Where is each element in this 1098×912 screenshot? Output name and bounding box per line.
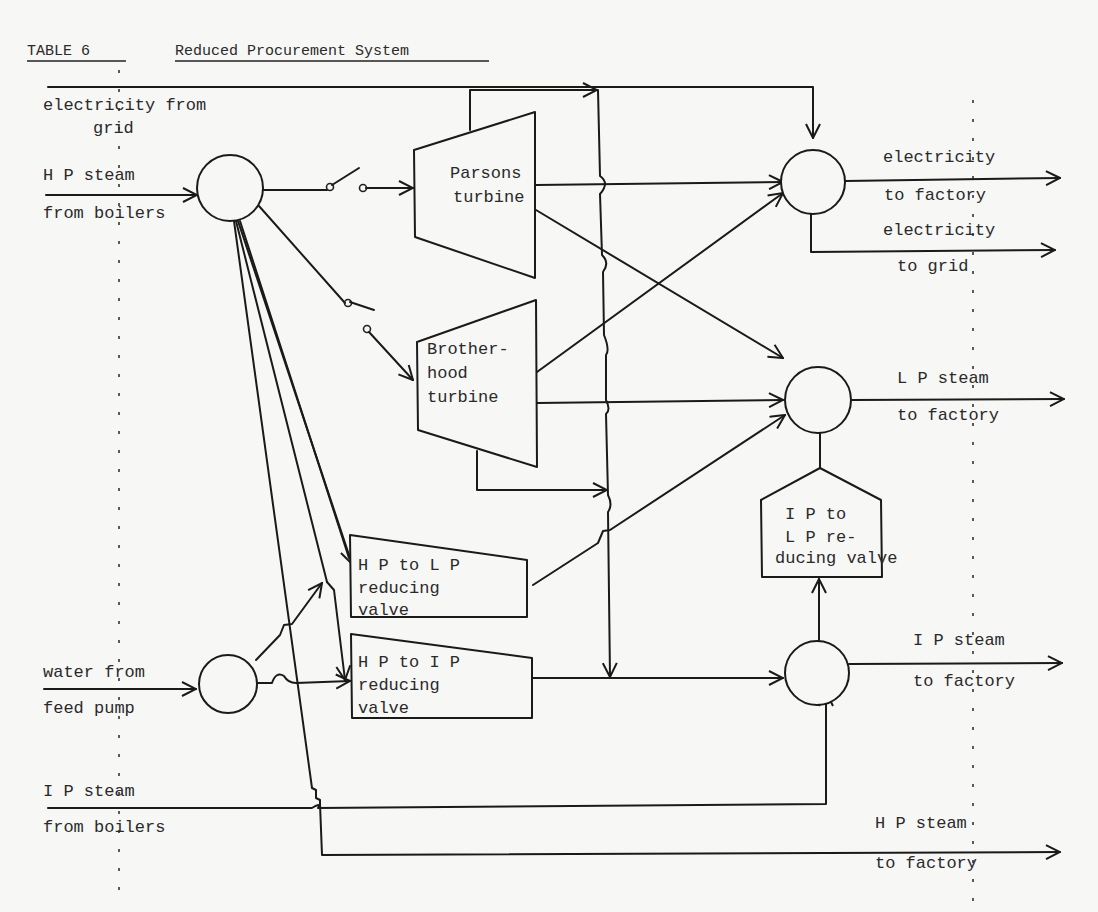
parsons-label-line1: Parsons	[450, 164, 521, 183]
input-water-line1: water from	[43, 663, 145, 682]
ip-steam-node	[785, 641, 849, 705]
output-electricity-grid-line2: to grid	[897, 257, 968, 276]
desuperheater-water-node	[199, 655, 257, 713]
output-hp-steam-line1: H P steam	[875, 814, 967, 833]
brotherhood-label-line1: Brother-	[427, 340, 509, 359]
hp-lp-valve-line2: reducing	[358, 579, 440, 598]
output-electricity-factory-line1: electricity	[883, 148, 995, 167]
ip-lp-valve-line2: L P re-	[785, 528, 856, 547]
hp-lp-valve-line3: valve	[358, 601, 409, 620]
hp-ip-valve-line3: valve	[358, 699, 409, 718]
input-water-line2: feed pump	[43, 699, 135, 718]
switch-lever	[350, 302, 374, 310]
ip-lp-valve-line1: I P to	[785, 505, 846, 524]
output-lp-steam-line2: to factory	[897, 406, 999, 425]
brotherhood-turbine	[417, 300, 537, 467]
input-ip-steam-line2: from boilers	[43, 818, 165, 837]
hp-ip-valve-line2: reducing	[358, 676, 440, 695]
hp-ip-valve-line1: H P to I P	[358, 653, 460, 672]
brotherhood-lp-steam-line	[537, 400, 783, 403]
output-ip-steam-line2: to factory	[913, 672, 1015, 691]
water-to-hp-ip-valve	[257, 675, 350, 683]
brotherhood-label-line3: turbine	[427, 388, 498, 407]
brotherhood-electricity-line	[537, 193, 783, 372]
ip-steam-to-factory-line	[849, 663, 1062, 664]
output-electricity-factory-line2: to factory	[884, 186, 986, 205]
diagram-page: TABLE 6 Reduced Procurement System elect…	[0, 0, 1098, 912]
hp-lp-valve-line1: H P to L P	[358, 556, 460, 575]
hp-steam-header-node	[197, 155, 263, 221]
electricity-to-factory-line	[845, 178, 1060, 181]
output-hp-steam-line2: to factory	[875, 854, 977, 873]
ip-lp-valve-line3: ducing valve	[775, 549, 897, 568]
procurement-flow-diagram: TABLE 6 Reduced Procurement System elect…	[0, 0, 1098, 912]
diagram-caption: Reduced Procurement System	[175, 43, 409, 60]
brotherhood-bottom-exhaust	[477, 451, 607, 490]
title-block: TABLE 6 Reduced Procurement System	[27, 43, 489, 61]
input-electricity-grid-line2: grid	[93, 119, 134, 138]
electricity-node	[781, 150, 845, 214]
parsons-switch	[263, 168, 413, 192]
parsons-label-line2: turbine	[453, 188, 524, 207]
switch-lever	[332, 168, 359, 185]
input-ip-steam-line1: I P steam	[43, 782, 135, 801]
parsons-electricity-line	[536, 182, 783, 185]
output-ip-steam-line1: I P steam	[913, 631, 1005, 650]
input-hp-steam-line1: H P steam	[43, 166, 135, 185]
hp-lp-valve-output-line	[533, 415, 785, 585]
brotherhood-label-line2: hood	[427, 364, 468, 383]
output-lp-steam-line1: L P steam	[897, 369, 989, 388]
input-hp-steam-line2: from boilers	[43, 204, 165, 223]
table-label: TABLE 6	[27, 43, 90, 60]
vertical-bus-line	[598, 90, 611, 677]
lp-steam-to-factory-line	[851, 399, 1064, 400]
lp-steam-node	[785, 367, 851, 433]
input-electricity-grid-line1: electricity from	[43, 96, 206, 115]
output-electricity-grid-line1: electricity	[883, 221, 995, 240]
